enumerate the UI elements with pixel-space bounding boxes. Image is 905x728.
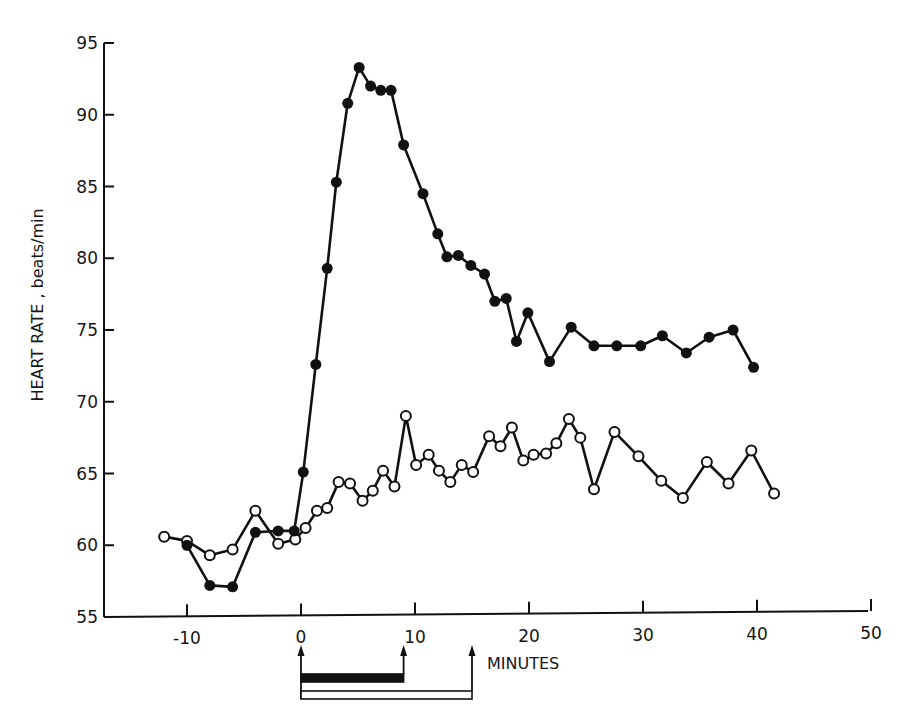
filled-circle-marker	[635, 340, 646, 351]
filled-circle-marker	[398, 139, 409, 150]
filled-circle-marker	[310, 359, 321, 370]
open-circle-marker	[468, 467, 478, 477]
open-circle-marker	[205, 550, 215, 560]
open-circle-marker	[541, 448, 551, 458]
open-circle-marker	[312, 506, 322, 516]
y-tick-label: 90	[76, 105, 98, 125]
filled-circle-marker	[728, 325, 739, 336]
y-tick-label: 70	[76, 392, 98, 412]
filled-circle-marker	[441, 251, 452, 262]
filled-circle-marker	[544, 356, 555, 367]
open-circle-marker	[633, 451, 643, 461]
open-circle-marker	[610, 427, 620, 437]
filled-circle-marker	[322, 263, 333, 274]
filled-circle-marker	[453, 250, 464, 261]
filled-circle-marker	[511, 336, 522, 347]
y-tick-label: 75	[76, 320, 98, 340]
filled-circle-marker	[354, 62, 365, 73]
y-tick-label: 95	[76, 33, 98, 53]
filled-circle-marker	[657, 330, 668, 341]
open-circle-marker	[250, 506, 260, 516]
open-circle-marker	[378, 466, 388, 476]
filled-circle-marker	[479, 269, 490, 280]
open-circle-marker	[345, 479, 355, 489]
filled-circle-marker	[432, 228, 443, 239]
y-axis-ticks: 556065707580859095	[76, 33, 114, 627]
open-circle-marker	[529, 450, 539, 460]
filled-circle-marker	[386, 85, 397, 96]
open-circle-marker	[228, 545, 238, 555]
open-circle-marker	[434, 466, 444, 476]
filled-circle-marker	[289, 525, 300, 536]
x-tick-label: 20	[518, 626, 540, 646]
y-tick-label: 65	[76, 464, 98, 484]
open-circle-marker	[301, 523, 311, 533]
open-circle-marker	[457, 460, 467, 470]
open-circle-marker	[575, 433, 585, 443]
open-circle-marker	[678, 493, 688, 503]
filled-circle-marker	[298, 467, 309, 478]
open-circle-marker	[411, 460, 421, 470]
stimulus-period-annotations	[298, 645, 476, 699]
y-tick-label: 80	[76, 248, 98, 268]
y-axis-label: HEART RATE , beats/min	[28, 208, 47, 401]
filled-circle-marker	[522, 307, 533, 318]
filled-bar	[301, 674, 404, 682]
open-circle-marker	[322, 503, 332, 513]
open-circle-marker	[159, 532, 169, 542]
open-circle-marker	[507, 423, 517, 433]
axes	[104, 43, 868, 617]
x-tick-label: 50	[860, 623, 882, 643]
open-circle-marker	[389, 481, 399, 491]
open-circle-marker	[724, 479, 734, 489]
filled-circle-marker	[182, 540, 193, 551]
filled-circle-marker	[465, 260, 476, 271]
filled-circle-marker	[331, 177, 342, 188]
filled-circle-marker	[611, 340, 622, 351]
open-circle-marker	[564, 414, 574, 424]
filled-circle-marker	[204, 580, 215, 591]
open-circle-marker	[401, 411, 411, 421]
open-circle-marker	[484, 431, 494, 441]
open-circle-marker	[424, 450, 434, 460]
filled-circle-marker	[227, 581, 238, 592]
open-circle-marker	[368, 486, 378, 496]
open-bar	[301, 691, 472, 699]
open-circle-marker	[496, 441, 506, 451]
filled-circle-marker	[365, 81, 376, 92]
arrow-up-icon	[469, 645, 476, 656]
x-axis-ticks: -1001020304050	[173, 599, 882, 648]
filled-circle-marker	[704, 332, 715, 343]
x-axis-label: MINUTES	[487, 654, 559, 673]
open-circle-marker	[334, 477, 344, 487]
open-circle-marker	[358, 496, 368, 506]
open-circle-marker	[769, 489, 779, 499]
filled-circle-marker	[501, 293, 512, 304]
open-circle-marker	[445, 477, 455, 487]
filled-circle-marker	[375, 85, 386, 96]
open-circle-marker	[518, 456, 528, 466]
filled-circle-marker	[250, 527, 261, 538]
open-circle-marker	[589, 484, 599, 494]
x-tick-label: 40	[746, 624, 768, 644]
open-circle-marker	[702, 457, 712, 467]
filled-circle-marker	[273, 525, 284, 536]
open-circle-marker	[551, 438, 561, 448]
open-circle-marker	[273, 539, 283, 549]
filled-circle-marker	[588, 340, 599, 351]
filled-circle-marker	[566, 322, 577, 333]
open-circle-marker	[656, 476, 666, 486]
data-series	[159, 62, 779, 592]
x-tick-label: 10	[404, 627, 426, 647]
filled-circle-marker	[748, 362, 759, 373]
filled-circle-marker	[489, 296, 500, 307]
filled-circle-marker	[342, 98, 353, 109]
arrow-up-icon	[400, 645, 407, 656]
x-tick-label: 0	[296, 627, 307, 647]
y-tick-label: 60	[76, 535, 98, 555]
x-tick-label: -10	[173, 628, 201, 648]
filled-circle-marker	[417, 188, 428, 199]
series-filled-circles	[182, 62, 760, 592]
heart-rate-chart: 556065707580859095 -1001020304050 HEART …	[0, 0, 905, 728]
x-tick-label: 30	[632, 625, 654, 645]
